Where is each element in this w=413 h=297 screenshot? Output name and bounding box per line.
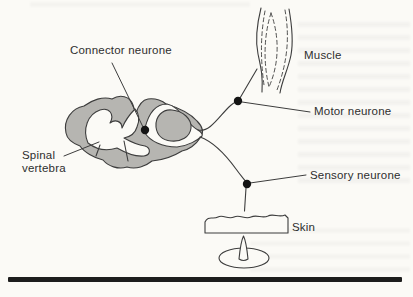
muscle-outline-right (280, 9, 292, 93)
scanned-textbook-page: Connector neurone Muscle Motor neurone S… (0, 0, 413, 297)
label-motor-neurone: Motor neurone (314, 105, 391, 118)
pin-point-cone (239, 236, 248, 261)
bottom-page-rule (8, 277, 402, 282)
muscle-fibre-dashed (265, 13, 271, 87)
pin-pricking-skin-drawing (219, 236, 269, 268)
label-connector-neurone: Connector neurone (70, 44, 172, 57)
motor-neurone-path (198, 101, 238, 130)
muscle-spindle-drawing (257, 8, 292, 93)
label-sensory-neurone: Sensory neurone (310, 169, 401, 182)
label-spinal-vertebra: Spinal vertebra (22, 149, 78, 174)
label-skin: Skin (292, 221, 315, 234)
sensory-neurone-path (200, 137, 247, 183)
motor-neurone-to-muscle-line (240, 69, 257, 98)
sensory-neurone-to-skin-line (245, 188, 247, 211)
label-muscle: Muscle (304, 49, 342, 62)
skin-section-drawing (205, 215, 288, 233)
sensory-neurone-junction-dot (243, 180, 251, 188)
connector-neurone-synapse-dot (141, 126, 149, 134)
spinal-cord-cross-section-drawing (65, 96, 202, 168)
motor-neurone-junction-dot (234, 97, 242, 105)
sensory-neurone-leader-line (250, 175, 306, 183)
motor-neurone-leader-line (242, 102, 310, 112)
muscle-fibre-dashed (277, 10, 287, 90)
muscle-fibre-dashed (269, 13, 277, 87)
